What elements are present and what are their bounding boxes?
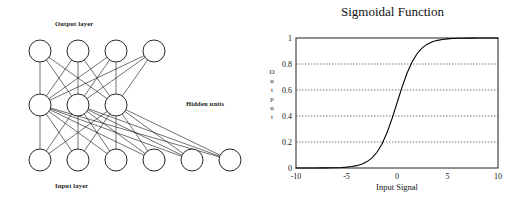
x-tick-label: 5 [446, 172, 450, 181]
network-node-input-6 [219, 149, 241, 171]
x-axis-tick-labels: -10-50510 [291, 172, 502, 181]
network-node-input-4 [143, 149, 165, 171]
x-tick-label: 10 [494, 172, 502, 181]
network-node-input-2 [67, 149, 89, 171]
network-node-hidden-3 [105, 94, 127, 116]
chart-plot: -10-50510 00.20.40.60.81 Input Signal [262, 0, 523, 201]
network-node-output-1 [29, 40, 51, 62]
network-node-input-3 [105, 149, 127, 171]
network-node-input-5 [181, 149, 203, 171]
network-node-hidden-1 [29, 94, 51, 116]
sigmoid-curve [296, 38, 498, 168]
y-tick-label: 0.2 [282, 138, 292, 147]
network-edge [50, 110, 144, 155]
network-node-output-3 [105, 40, 127, 62]
output-layer-label: Output layer [55, 20, 93, 27]
sigmoid-chart-panel: Sigmoidal Function Output -10-50510 00.2… [262, 0, 523, 201]
x-tick-label: -5 [343, 172, 350, 181]
hidden-units-label: Hidden units [186, 100, 224, 107]
y-tick-label: 0.4 [282, 112, 292, 121]
network-graph [0, 0, 268, 201]
network-node-output-2 [67, 40, 89, 62]
y-tick-label: 0 [288, 164, 292, 173]
y-tick-label: 1 [288, 34, 292, 43]
network-edge [122, 60, 147, 96]
network-node-hidden-2 [67, 94, 89, 116]
network-node-output-4 [143, 40, 165, 62]
network-node-input-1 [29, 149, 51, 171]
network-edge [126, 110, 220, 155]
x-tick-label: 0 [395, 172, 399, 181]
figure-root: Output layer Input layer Hidden units Si… [0, 0, 523, 201]
y-tick-label: 0.8 [282, 60, 292, 69]
input-layer-label: Input layer [55, 182, 88, 189]
neural-network-diagram: Output layer Input layer Hidden units [0, 0, 268, 201]
y-tick-label: 0.6 [282, 86, 292, 95]
x-axis-label: Input Signal [376, 182, 418, 192]
x-tick-label: -10 [291, 172, 302, 181]
y-axis-tick-labels: 00.20.40.60.81 [282, 34, 292, 173]
